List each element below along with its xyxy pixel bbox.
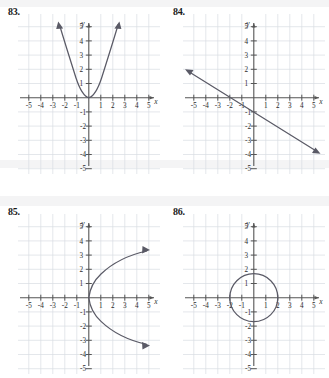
y-tick-labels-85: 5 4 3 2 1 -1 -2 -3 -4 -5	[79, 223, 86, 373]
y-tick-label: 2	[244, 266, 248, 274]
y-tick-label: -1	[245, 309, 251, 317]
x-tick-label: 1	[264, 102, 268, 110]
x-tick-label: -4	[203, 302, 209, 310]
x-tick-label: 5	[147, 102, 151, 110]
x-tick-label: -4	[203, 102, 209, 110]
y-tick-label: 4	[244, 238, 248, 246]
y-tick-label: -3	[80, 137, 86, 145]
y-tick-label: -2	[80, 323, 86, 331]
y-axis-label: y	[245, 219, 250, 228]
problem-85-graph: -5 -4 -3 -2 -1 1 2 3 4 5 5 4 3 2 1	[18, 214, 160, 374]
y-tick-labels-84: 5 4 3 2 1 -1 -2 -3 -4 -5	[244, 23, 251, 173]
y-tick-label: -3	[245, 137, 251, 145]
y-tick-label: 1	[244, 280, 248, 288]
x-axis-label: x	[153, 97, 158, 106]
x-tick-label: 4	[300, 302, 304, 310]
x-tick-label: -5	[26, 102, 32, 110]
x-tick-label: -5	[26, 302, 32, 310]
axes-86	[185, 223, 319, 366]
y-tick-label: -3	[80, 337, 86, 345]
y-tick-label: -5	[80, 165, 86, 173]
y-tick-label: -5	[80, 365, 86, 373]
y-tick-labels-83: 5 4 3 2 1 -1 -2 -3 -4 -5	[79, 23, 86, 173]
x-tick-label: 1	[264, 302, 268, 310]
problem-86-graph: -5 -4 -3 -2 -1 1 2 3 4 5 5 4 3 2 1	[183, 214, 325, 374]
x-tick-label: -3	[50, 102, 56, 110]
x-tick-label: 2	[276, 102, 280, 110]
x-tick-label: 4	[300, 102, 304, 110]
y-tick-label: -3	[245, 337, 251, 345]
x-tick-label: -3	[50, 302, 56, 310]
y-tick-label: 3	[244, 52, 248, 60]
y-tick-label: 4	[79, 38, 83, 46]
x-tick-label: 2	[111, 302, 115, 310]
y-tick-label: -4	[80, 151, 86, 159]
y-tick-label: 3	[79, 252, 83, 260]
x-tick-label: 1	[99, 302, 103, 310]
x-tick-label: 4	[135, 302, 139, 310]
x-axis-label: x	[153, 297, 158, 306]
y-tick-label: 2	[79, 66, 83, 74]
y-tick-label: -1	[80, 109, 86, 117]
y-tick-label: -4	[80, 351, 86, 359]
y-tick-label: 3	[79, 52, 83, 60]
y-tick-label: -4	[245, 351, 251, 359]
y-tick-label: 3	[244, 252, 248, 260]
x-tick-label: -4	[38, 102, 44, 110]
y-tick-label: 2	[79, 266, 83, 274]
problem-83-svg: -5 -4 -3 -2 -1 1 2 3 4 5 5 4 3 2 1	[18, 14, 160, 174]
x-axis-label: x	[318, 297, 323, 306]
x-tick-label: 2	[111, 102, 115, 110]
axes-83	[20, 23, 154, 166]
problem-85-svg: -5 -4 -3 -2 -1 1 2 3 4 5 5 4 3 2 1	[18, 214, 160, 374]
y-tick-label: 1	[79, 280, 83, 288]
y-tick-label: -4	[245, 151, 251, 159]
x-axis-label: x	[318, 97, 323, 106]
y-tick-labels-86: 5 4 3 2 1 -1 -2 -3 -4 -5	[244, 223, 251, 373]
x-tick-label: -2	[62, 302, 68, 310]
problem-86-svg: -5 -4 -3 -2 -1 1 2 3 4 5 5 4 3 2 1	[183, 214, 325, 374]
y-tick-label: 4	[79, 238, 83, 246]
x-tick-label: 3	[123, 302, 127, 310]
y-axis-label: y	[80, 19, 85, 28]
y-tick-label: -5	[245, 165, 251, 173]
y-axis-label: y	[245, 19, 250, 28]
axes-85	[20, 223, 154, 366]
curve-84-line	[185, 69, 321, 153]
y-tick-label: 4	[244, 38, 248, 46]
problem-83-graph: -5 -4 -3 -2 -1 1 2 3 4 5 5 4 3 2 1	[18, 14, 160, 174]
x-tick-label: -3	[215, 302, 221, 310]
x-tick-label: -2	[62, 102, 68, 110]
x-tick-label: -4	[38, 302, 44, 310]
y-axis-label: y	[80, 219, 85, 228]
y-tick-label: 2	[244, 66, 248, 74]
x-tick-label: 3	[288, 302, 292, 310]
problem-86: 86.	[165, 200, 329, 378]
axes-84	[185, 23, 319, 166]
problem-84-graph: -5 -4 -3 -2 -1 1 2 3 4 5 5 4 3 2 1	[183, 14, 325, 174]
y-tick-label: -5	[245, 365, 251, 373]
y-tick-label: 1	[244, 80, 248, 88]
x-tick-label: 3	[123, 102, 127, 110]
x-tick-label: -2	[227, 102, 233, 110]
y-tick-label: -2	[245, 123, 251, 131]
x-tick-label: 5	[312, 102, 316, 110]
problem-85: 85.	[0, 200, 164, 378]
x-tick-label: 4	[135, 102, 139, 110]
x-tick-label: 5	[312, 302, 316, 310]
x-tick-label: 1	[99, 102, 103, 110]
problem-84: 84.	[165, 0, 329, 183]
problem-84-svg: -5 -4 -3 -2 -1 1 2 3 4 5 5 4 3 2 1	[183, 14, 325, 174]
y-tick-label: -2	[245, 323, 251, 331]
x-tick-label: -3	[215, 102, 221, 110]
problem-83: 83.	[0, 0, 164, 183]
x-tick-label: -5	[191, 102, 197, 110]
x-tick-label: -5	[191, 302, 197, 310]
y-tick-label: -2	[80, 123, 86, 131]
x-tick-label: 3	[288, 102, 292, 110]
y-tick-label: -1	[80, 309, 86, 317]
x-tick-label: 5	[147, 302, 151, 310]
